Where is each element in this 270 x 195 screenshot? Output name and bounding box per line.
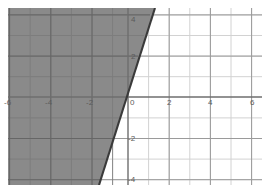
x-tick-label: 2 [167, 99, 171, 107]
graph-canvas [0, 0, 270, 195]
y-tick-label: 4 [131, 16, 135, 24]
y-tick-label: -4 [128, 176, 135, 184]
coordinate-plane-figure: -6 -4 -2 0 2 4 6 4 2 -2 -4 [0, 0, 270, 195]
x-tick-label: -2 [86, 99, 93, 107]
x-tick-label: 6 [250, 99, 254, 107]
x-tick-label: -4 [45, 99, 52, 107]
x-tick-label: -6 [4, 99, 11, 107]
x-tick-label: 4 [208, 99, 212, 107]
y-tick-label: -2 [128, 135, 135, 143]
y-tick-label: 2 [131, 53, 135, 61]
origin-tick-label: 0 [130, 99, 134, 107]
